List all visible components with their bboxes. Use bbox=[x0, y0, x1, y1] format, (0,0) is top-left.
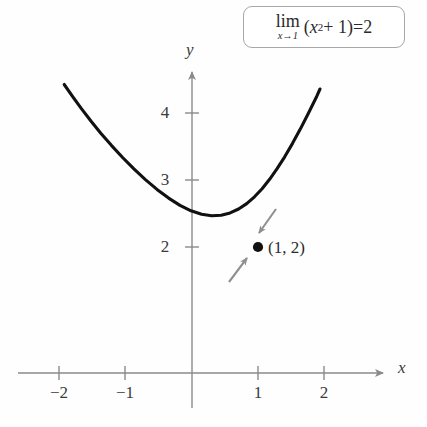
x-tick-label-1: 1 bbox=[248, 383, 268, 403]
y-tick-label-2: 2 bbox=[155, 237, 175, 257]
y-axis-label: y bbox=[186, 40, 194, 60]
limit-operator-stack: lim x→1 bbox=[276, 12, 300, 42]
limit-result: 2 bbox=[363, 17, 372, 38]
limit-subscript: x→1 bbox=[278, 31, 298, 42]
limit-point-label: (1, 2) bbox=[268, 238, 305, 258]
approach-arrow-from-left bbox=[229, 258, 247, 282]
limit-expression: lim x→1 ( x 2 + 1 ) = 2 bbox=[244, 7, 404, 47]
figure-container: x y −2 −1 1 2 2 3 4 (1, 2) lim x→1 ( x 2… bbox=[0, 0, 427, 427]
x-tick-label--1: −1 bbox=[110, 383, 140, 403]
limit-expression-box: lim x→1 ( x 2 + 1 ) = 2 bbox=[243, 6, 405, 48]
x-axis-label: x bbox=[398, 358, 406, 378]
x-tick-label-2: 2 bbox=[314, 383, 334, 403]
x-tick-label--2: −2 bbox=[44, 383, 74, 403]
y-tick-label-3: 3 bbox=[155, 170, 175, 190]
equals-sign: = bbox=[353, 17, 363, 38]
graph-canvas bbox=[0, 0, 427, 427]
plus-one-term: + 1 bbox=[323, 17, 347, 38]
variable-x: x bbox=[310, 17, 318, 38]
y-tick-label-4: 4 bbox=[155, 103, 175, 123]
limit-operator: lim bbox=[276, 12, 300, 30]
limit-point-marker bbox=[253, 242, 263, 252]
approach-arrow-from-right bbox=[259, 209, 276, 233]
